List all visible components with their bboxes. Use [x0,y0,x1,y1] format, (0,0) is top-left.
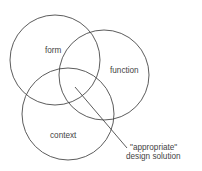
annotation-line-2: design solution [126,152,181,161]
form-label: form [45,46,62,55]
context-circle [22,68,114,160]
venn-diagram: form function context "appropriate" desi… [0,0,202,171]
annotation-line-1: "appropriate" [130,143,177,152]
form-circle [10,15,100,105]
function-label: function [110,66,139,75]
function-circle [59,30,149,120]
context-label: context [50,131,77,140]
